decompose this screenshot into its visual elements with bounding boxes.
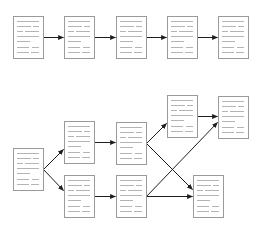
arrow-B2a-to-B3a [147,124,167,144]
arrow-B2a-to-B3c [147,144,193,190]
document-node-L4 [168,17,198,59]
branching-graph-section [14,96,249,218]
linear-chain-section [14,17,249,59]
document-node-B3c [194,176,224,218]
arrow-B0-to-B1b [44,170,64,191]
document-flow-diagram [0,0,261,228]
document-node-B1a [65,122,95,164]
document-node-B2b [117,176,147,218]
document-node-B3a [168,96,198,138]
document-node-L1 [14,17,44,59]
document-node-L2 [65,17,95,59]
document-node-B2a [117,123,147,165]
document-node-B0 [14,149,44,191]
document-node-L5 [219,17,249,59]
document-node-B3b [219,97,249,139]
diagram-canvas [0,0,261,228]
branching-graph-nodes [14,96,249,218]
document-node-B1b [65,176,95,218]
document-node-L3 [117,17,147,59]
arrow-B0-to-B1a [44,150,64,170]
